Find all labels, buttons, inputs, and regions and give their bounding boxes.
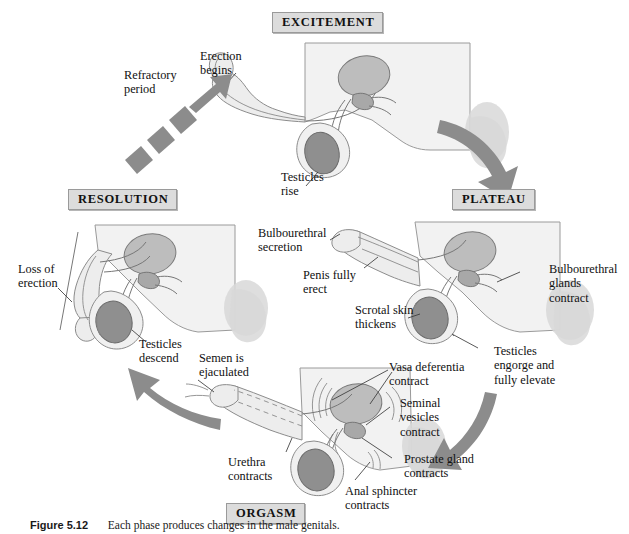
annotation-vasa-deferentia-contract: Vasa deferentia contract: [389, 360, 464, 389]
annotation-seminal-vesicles-contract: Seminal vesicles contract: [400, 396, 440, 439]
sexual-response-cycle-diagram: .ol{fill:none;stroke:#777;stroke-width:1…: [0, 0, 629, 534]
annotation-refractory-period: Refractory period: [124, 68, 177, 97]
annotation-testicles-descend: Testicles descend: [139, 337, 182, 366]
annotation-bulbourethral-secretion: Bulbourethral secretion: [258, 226, 326, 255]
annotation-anal-sphincter-contracts: Anal sphincter contracts: [345, 484, 417, 513]
figure-caption-label: Figure 5.12: [30, 519, 88, 531]
annotation-scrotal-skin-thickens: Scrotal skin thickens: [355, 303, 413, 332]
illustration-layer: .ol{fill:none;stroke:#777;stroke-width:1…: [0, 0, 629, 534]
annotation-semen-is-ejaculated: Semen is ejaculated: [199, 351, 249, 380]
phase-label-resolution: RESOLUTION: [68, 189, 177, 210]
excitement-illustration: [209, 43, 509, 186]
annotation-prostate-gland-contracts: Prostate gland contracts: [404, 452, 474, 481]
annotation-bulbourethral-glands-contract: Bulbourethral glands contract: [549, 262, 617, 305]
resolution-illustration: [58, 225, 268, 349]
annotation-penis-fully-erect: Penis fully erect: [303, 268, 356, 297]
figure-caption-text: Each phase produces changes in the male …: [108, 519, 340, 531]
figure-caption: Figure 5.12 Each phase produces changes …: [30, 519, 340, 531]
phase-label-plateau: PLATEAU: [452, 189, 535, 210]
annotation-erection-begins: Erection begins: [200, 49, 242, 78]
annotation-urethra-contracts: Urethra contracts: [228, 455, 272, 484]
phase-label-excitement: EXCITEMENT: [272, 12, 383, 33]
annotation-testicles-rise: Testicles rise: [281, 170, 324, 199]
annotation-testicles-engorge: Testicles engorge and fully elevate: [494, 344, 555, 387]
annotation-loss-of-erection: Loss of erection: [18, 262, 58, 291]
